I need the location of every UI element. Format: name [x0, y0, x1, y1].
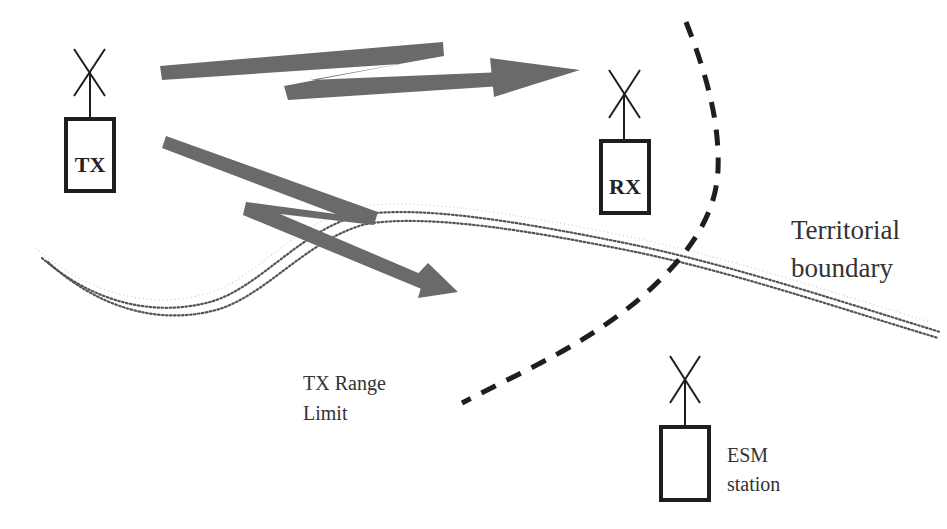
esm-node: [661, 356, 709, 500]
tx-range-limit-annotation: TX Range Limit: [303, 372, 386, 424]
esm-box: [661, 427, 709, 500]
territorial-boundary-label-line2: boundary: [791, 253, 893, 283]
lightning-arrow-tx-across-boundary: [162, 136, 458, 298]
esm-station-label-line1: ESM: [727, 444, 768, 466]
esm-station-label-line2: station: [727, 473, 780, 495]
diagram-svg: TX RX Territorial boundary: [0, 0, 947, 529]
esm-station-annotation: ESM station: [727, 444, 780, 495]
tx-range-limit-label-line1: TX Range: [303, 372, 386, 395]
rx-node: RX: [601, 70, 649, 213]
arrowhead-icon: [490, 58, 580, 97]
antenna-icon: [670, 356, 700, 426]
tx-label: TX: [75, 152, 106, 177]
rx-label: RX: [609, 174, 641, 199]
tx-node: TX: [66, 49, 114, 191]
lightning-arrow-tx-to-rx: [160, 42, 580, 100]
antenna-icon: [609, 70, 640, 141]
diagram-canvas: TX RX Territorial boundary: [0, 0, 947, 529]
territorial-boundary-label-line1: Territorial: [791, 215, 900, 245]
antenna-icon: [74, 49, 105, 119]
tx-range-limit-label-line2: Limit: [303, 402, 348, 424]
arrowhead-icon: [412, 263, 458, 298]
territorial-boundary-annotation: Territorial boundary: [791, 215, 900, 283]
